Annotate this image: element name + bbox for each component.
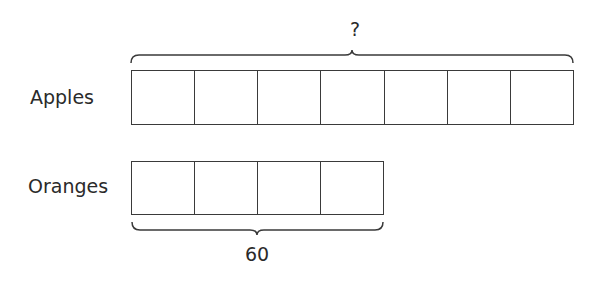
apples-unit <box>385 71 448 124</box>
apples-brace <box>130 50 574 64</box>
oranges-label: Oranges <box>28 177 108 196</box>
oranges-unit <box>321 162 383 214</box>
apples-unit <box>132 71 195 124</box>
apples-unit <box>321 71 384 124</box>
oranges-unit <box>258 162 321 214</box>
oranges-unit <box>132 162 195 214</box>
oranges-brace <box>131 222 385 236</box>
oranges-bar <box>131 161 384 215</box>
oranges-unit <box>195 162 258 214</box>
apples-total-label: ? <box>350 20 360 39</box>
apples-label: Apples <box>30 88 94 107</box>
oranges-total-label: 60 <box>245 245 269 264</box>
apples-unit <box>195 71 258 124</box>
apples-unit <box>448 71 511 124</box>
apples-unit <box>511 71 573 124</box>
apples-unit <box>258 71 321 124</box>
apples-bar <box>131 70 574 125</box>
